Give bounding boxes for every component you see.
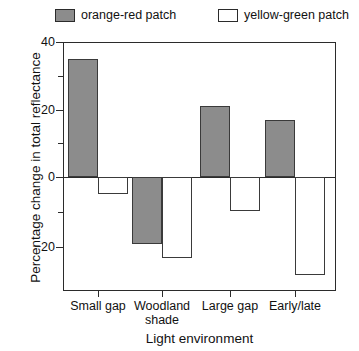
x-category-label-early-late: Early/late [250,300,340,314]
y-tick-label-0: 0 [7,171,55,183]
bar-small-gap-yellow-green-patch [98,177,128,194]
bar-early-late-orange-red-patch [265,120,295,177]
legend-entry-orange-red-patch: orange-red patch [55,8,176,22]
x-axis-title: Light environment [63,331,336,346]
legend-entry-yellow-green-patch: yellow-green patch [218,8,349,22]
bar-chart-figure: orange-red patch yellow-green patch Perc… [0,0,359,351]
legend-label: yellow-green patch [244,8,349,22]
x-tick-woodland-shade [162,291,163,297]
y-tick-label-40: 40 [7,36,55,48]
x-tick-small-gap [98,291,99,297]
bar-large-gap-yellow-green-patch [230,177,260,211]
y-tick-label-20: 20 [7,104,55,116]
bar-woodland-shade-yellow-green-patch [162,177,192,258]
bar-early-late-yellow-green-patch [295,177,325,275]
x-tick-large-gap [230,291,231,297]
y-tick-label-minus-20: −20 [7,241,55,253]
x-category-line: Early/late [250,300,340,314]
chart-legend: orange-red patch yellow-green patch [55,8,355,28]
legend-label: orange-red patch [81,8,176,22]
legend-swatch-filled-gray-square [55,9,75,22]
bar-woodland-shade-orange-red-patch [132,177,162,244]
y-axis-title: Percentage change in total reflectance [28,43,43,293]
bar-large-gap-orange-red-patch [200,106,230,177]
x-category-line: shade [117,314,207,328]
bar-small-gap-orange-red-patch [68,59,98,177]
x-tick-early-late [295,291,296,297]
legend-swatch-open-white-square [218,9,238,22]
